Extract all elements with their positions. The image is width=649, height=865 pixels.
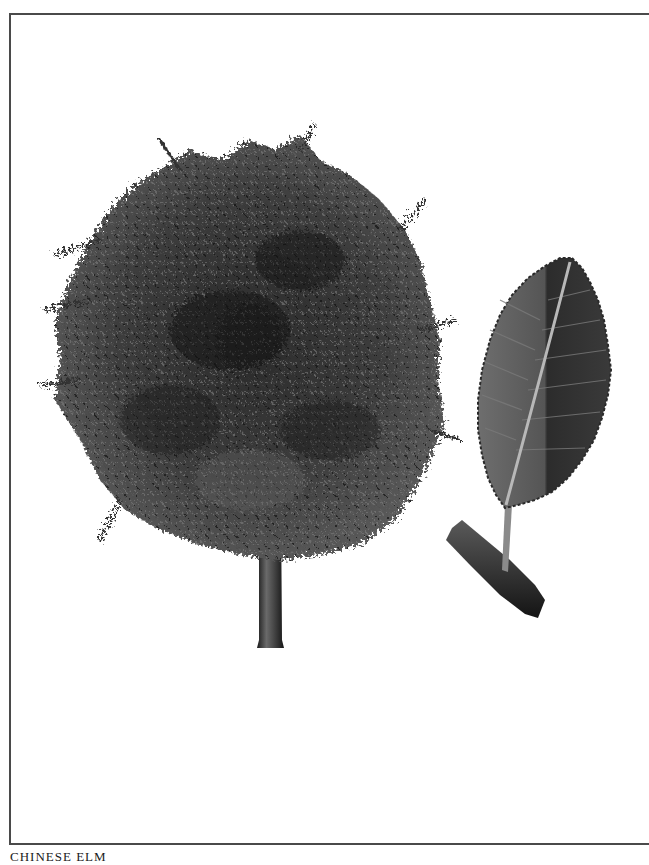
tree-canopy <box>40 125 460 560</box>
plate-caption: CHINESE ELM <box>10 849 107 865</box>
leaf-specimen <box>446 258 611 618</box>
